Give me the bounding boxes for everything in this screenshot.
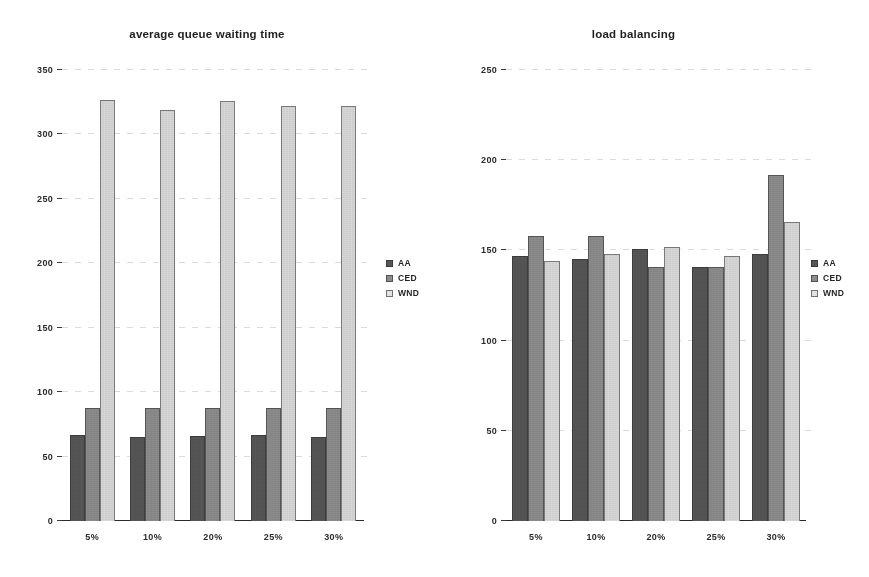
bar-group: 25% <box>692 70 740 521</box>
bar-aa-20pct <box>190 436 205 521</box>
chart-title-right: load balancing <box>416 28 851 40</box>
legend-swatch-icon-wnd <box>386 290 393 297</box>
x-axis-tick-label: 10% <box>586 532 605 542</box>
bar-wnd-25pct <box>724 256 740 521</box>
y-axis-tick-label: 50 <box>42 452 53 462</box>
y-axis-tick-label: 350 <box>37 65 53 75</box>
y-axis-tick-label: 100 <box>37 387 53 397</box>
bar-ced-5pct <box>85 408 100 521</box>
bar-group: 25% <box>251 70 296 521</box>
y-axis-tick-label: 250 <box>37 194 53 204</box>
legend-label: WND <box>823 288 844 298</box>
bar-wnd-5pct <box>100 100 115 521</box>
bar-ced-30pct <box>326 408 341 521</box>
bar-wnd-30pct <box>784 222 800 521</box>
x-axis-tick-label: 10% <box>143 532 162 542</box>
bar-aa-20pct <box>632 249 648 521</box>
chart-panel-load-balancing: load balancing 050100150200250 5%10%20%2… <box>434 0 869 577</box>
bar-group: 5% <box>512 70 560 521</box>
legend-label: AA <box>398 258 411 268</box>
bar-ced-20pct <box>205 408 220 521</box>
legend-item-aa: AA <box>386 258 419 268</box>
legend-label: AA <box>823 258 836 268</box>
bar-aa-30pct <box>752 254 768 521</box>
legend-swatch-icon-ced <box>386 275 393 282</box>
x-axis-tick-label: 25% <box>264 532 283 542</box>
plot-area-right: 050100150200250 5%10%20%25%30% <box>506 70 806 521</box>
x-axis-tick-label: 5% <box>529 532 543 542</box>
y-axis-tick-label: 0 <box>492 516 497 526</box>
bar-ced-10pct <box>145 408 160 521</box>
x-axis-tick-label: 5% <box>85 532 99 542</box>
bar-aa-5pct <box>70 435 85 521</box>
legend-swatch-icon-aa <box>386 260 393 267</box>
bar-ced-5pct <box>528 236 544 521</box>
bar-wnd-10pct <box>604 254 620 521</box>
bar-group: 10% <box>572 70 620 521</box>
legend-item-aa: AA <box>811 258 844 268</box>
legend-item-ced: CED <box>386 273 419 283</box>
legend-swatch-icon-ced <box>811 275 818 282</box>
bar-aa-5pct <box>512 256 528 521</box>
legend-label: WND <box>398 288 419 298</box>
x-axis-tick-label: 20% <box>203 532 222 542</box>
legend-label: CED <box>398 273 417 283</box>
bar-wnd-30pct <box>341 106 356 521</box>
bar-aa-25pct <box>692 267 708 521</box>
bar-group: 20% <box>632 70 680 521</box>
y-axis-tick-label: 50 <box>486 426 497 436</box>
legend-swatch-icon-wnd <box>811 290 818 297</box>
y-axis-tick-label: 150 <box>37 323 53 333</box>
bar-wnd-5pct <box>544 261 560 521</box>
x-axis-tick-label: 20% <box>646 532 665 542</box>
bar-ced-10pct <box>588 236 604 521</box>
bar-ced-20pct <box>648 267 664 521</box>
bar-aa-25pct <box>251 435 266 521</box>
bar-groups-left: 5%10%20%25%30% <box>62 70 364 521</box>
bar-group: 30% <box>311 70 356 521</box>
x-axis-tick-label: 30% <box>766 532 785 542</box>
legend-item-wnd: WND <box>811 288 844 298</box>
y-axis-tick-label: 150 <box>481 245 497 255</box>
y-axis-tick-label: 300 <box>37 129 53 139</box>
legend-label: CED <box>823 273 842 283</box>
y-axis-tick-label: 200 <box>481 155 497 165</box>
bar-group: 30% <box>752 70 800 521</box>
bar-group: 20% <box>190 70 235 521</box>
legend-item-wnd: WND <box>386 288 419 298</box>
bar-ced-30pct <box>768 175 784 521</box>
bar-group: 10% <box>130 70 175 521</box>
bar-wnd-10pct <box>160 110 175 521</box>
y-axis-tick-label: 250 <box>481 65 497 75</box>
y-axis-tick-label: 0 <box>48 516 53 526</box>
chart-title-left: average queue waiting time <box>0 28 424 40</box>
bar-ced-25pct <box>266 408 281 521</box>
bar-aa-10pct <box>130 437 145 521</box>
bar-group: 5% <box>70 70 115 521</box>
bar-ced-25pct <box>708 267 724 521</box>
bar-aa-30pct <box>311 437 326 521</box>
y-axis-tick-label: 100 <box>481 336 497 346</box>
bar-wnd-20pct <box>664 247 680 521</box>
legend-item-ced: CED <box>811 273 844 283</box>
bar-groups-right: 5%10%20%25%30% <box>506 70 806 521</box>
figure-root: average queue waiting time 0501001502002… <box>0 0 869 577</box>
x-axis-tick-label: 30% <box>324 532 343 542</box>
bar-wnd-20pct <box>220 101 235 521</box>
plot-area-left: 050100150200250300350 5%10%20%25%30% <box>62 70 364 521</box>
chart-panel-average-queue-waiting-time: average queue waiting time 0501001502002… <box>0 0 434 577</box>
y-axis-tick-label: 200 <box>37 258 53 268</box>
legend-left: AACEDWND <box>386 258 419 298</box>
bar-aa-10pct <box>572 259 588 521</box>
bar-wnd-25pct <box>281 106 296 521</box>
legend-right: AACEDWND <box>811 258 844 298</box>
x-axis-tick-label: 25% <box>706 532 725 542</box>
legend-swatch-icon-aa <box>811 260 818 267</box>
